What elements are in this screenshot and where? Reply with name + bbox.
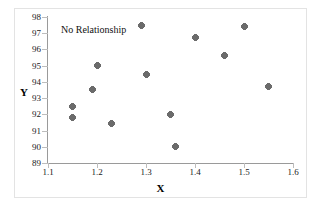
data-point <box>242 24 247 29</box>
y-tick-label: 96 <box>21 45 41 54</box>
scatter-plot-figure: Y 89909192939495969798 1.11.21.31.41.51.… <box>0 0 321 218</box>
data-point <box>173 144 178 149</box>
data-point <box>70 104 75 109</box>
x-axis-title: X <box>0 182 321 194</box>
x-tick-label: 1.2 <box>83 168 111 177</box>
x-tick-label: 1.5 <box>230 168 258 177</box>
data-point <box>193 35 198 40</box>
x-tick-label: 1.6 <box>279 168 307 177</box>
chart-annotation: No Relationship <box>61 24 126 35</box>
y-tick-label: 95 <box>21 62 41 71</box>
data-point <box>90 87 95 92</box>
y-tick-label: 89 <box>21 159 41 168</box>
data-point <box>139 23 144 28</box>
y-tick-label: 94 <box>21 78 41 87</box>
figure-caption <box>52 206 272 216</box>
data-point <box>109 121 114 126</box>
y-tick-label: 98 <box>21 13 41 22</box>
x-tick-label: 1.3 <box>132 168 160 177</box>
y-tick-label: 97 <box>21 29 41 38</box>
data-point <box>70 115 75 120</box>
y-tick-label: 91 <box>21 127 41 136</box>
y-tick-label: 92 <box>21 110 41 119</box>
data-point <box>168 112 173 117</box>
data-point <box>144 72 149 77</box>
x-tick-label: 1.1 <box>34 168 62 177</box>
data-point <box>95 63 100 68</box>
y-tick-label: 90 <box>21 143 41 152</box>
plot-area <box>48 17 293 163</box>
y-tick-label: 93 <box>21 94 41 103</box>
data-point <box>222 53 227 58</box>
x-axis-line <box>47 163 294 164</box>
x-tick-label: 1.4 <box>181 168 209 177</box>
data-point <box>266 84 271 89</box>
